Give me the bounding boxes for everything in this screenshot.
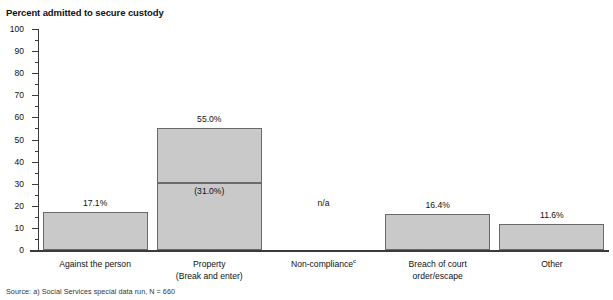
y-tick-minor bbox=[35, 151, 39, 152]
x-axis-category-line: Non-compliancec bbox=[291, 259, 356, 271]
y-tick-label: 50 bbox=[15, 135, 24, 145]
bar-value-label: 55.0% bbox=[197, 114, 221, 124]
x-axis-category-line: Breach of court bbox=[409, 259, 467, 271]
y-tick-label: 100 bbox=[10, 24, 24, 34]
x-axis-baseline bbox=[30, 250, 609, 252]
y-axis-line bbox=[38, 29, 39, 250]
bar-value-label: 11.6% bbox=[540, 210, 564, 220]
x-axis-category-line: Other bbox=[541, 259, 563, 271]
y-tick-minor bbox=[35, 40, 39, 41]
x-axis-category-line: Against the person bbox=[59, 259, 131, 271]
footnote-marker: c bbox=[353, 258, 356, 264]
y-tick-label: 30 bbox=[15, 179, 24, 189]
y-tick-minor bbox=[35, 62, 39, 63]
y-tick-major bbox=[32, 206, 38, 207]
y-tick-label: 0 bbox=[19, 245, 24, 255]
y-tick-label: 80 bbox=[15, 68, 24, 78]
y-tick-minor bbox=[35, 84, 39, 85]
bar-value-label: 16.4% bbox=[426, 200, 450, 210]
chart-plot-area: 1009080706050403020100 17.1%(31.0%)55.0%… bbox=[38, 29, 609, 250]
y-tick-label: 40 bbox=[15, 157, 24, 167]
y-tick-major bbox=[32, 162, 38, 163]
x-axis-category-line: (Break and enter) bbox=[176, 271, 243, 283]
y-tick-label: 90 bbox=[15, 46, 24, 56]
y-tick-major bbox=[32, 140, 38, 141]
x-axis-category-label: Property(Break and enter) bbox=[176, 259, 243, 282]
y-tick-minor bbox=[35, 239, 39, 240]
y-tick-major bbox=[32, 29, 38, 30]
y-tick-minor bbox=[35, 106, 39, 107]
bar-sub-segment-label: (31.0%) bbox=[194, 186, 224, 196]
y-tick-minor bbox=[35, 217, 39, 218]
y-tick-label: 20 bbox=[15, 201, 24, 211]
no-data-label: n/a bbox=[318, 198, 330, 208]
y-tick-label: 60 bbox=[15, 112, 24, 122]
bar-value-label: 17.1% bbox=[83, 198, 107, 208]
x-axis-category-line: order/escape bbox=[409, 271, 467, 283]
x-axis-category-label: Breach of courtorder/escape bbox=[409, 259, 467, 282]
y-tick-major bbox=[32, 228, 38, 229]
y-tick-minor bbox=[35, 128, 39, 129]
bar[interactable] bbox=[499, 224, 604, 250]
y-tick-label: 70 bbox=[15, 90, 24, 100]
y-tick-major bbox=[32, 51, 38, 52]
x-axis-category-label: Other bbox=[541, 259, 563, 271]
y-tick-major bbox=[32, 117, 38, 118]
y-tick-major bbox=[32, 250, 38, 251]
x-axis-category-line: Property bbox=[176, 259, 243, 271]
y-tick-major bbox=[32, 73, 38, 74]
y-tick-major bbox=[32, 184, 38, 185]
y-tick-label: 10 bbox=[15, 223, 24, 233]
y-tick-minor bbox=[35, 195, 39, 196]
x-axis-category-label: Non-compliancec bbox=[291, 259, 356, 271]
bar[interactable] bbox=[43, 212, 148, 250]
bar-sub-segment-divider bbox=[158, 182, 261, 183]
source-note: Source: a) Social Services special data … bbox=[6, 287, 175, 296]
y-axis-title: Percent admitted to secure custody bbox=[6, 7, 164, 18]
y-tick-major bbox=[32, 95, 38, 96]
bar[interactable] bbox=[385, 214, 490, 250]
y-tick-minor bbox=[35, 173, 39, 174]
x-axis-category-label: Against the person bbox=[59, 259, 131, 271]
